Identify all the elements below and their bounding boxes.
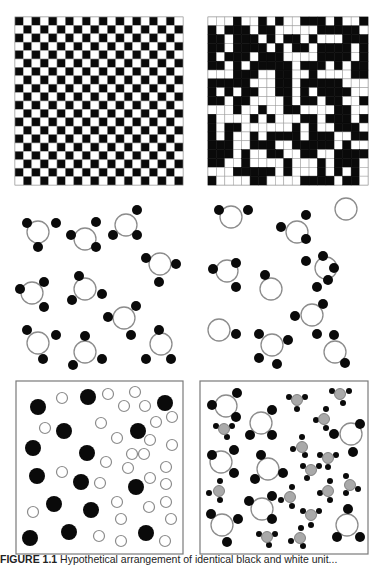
molecule — [108, 205, 142, 240]
white-cell — [15, 93, 23, 101]
white-cell — [99, 93, 107, 101]
white-cell — [91, 168, 99, 176]
white-cell — [158, 118, 166, 126]
white-cell — [275, 158, 283, 167]
black-cell — [309, 176, 317, 185]
black-cell — [91, 42, 99, 50]
black-cell — [175, 93, 183, 101]
atom — [51, 330, 61, 340]
white-cell — [57, 67, 65, 75]
black-cell — [23, 59, 31, 67]
black-cell — [40, 109, 48, 117]
atom — [340, 358, 350, 368]
white-sphere — [140, 401, 151, 412]
white-sphere — [57, 393, 68, 404]
gray-core — [335, 389, 346, 400]
atom — [243, 205, 253, 215]
white-cell — [267, 158, 275, 167]
black-cell — [32, 168, 40, 176]
atom — [224, 434, 230, 440]
black-cell — [360, 44, 368, 53]
white-cell — [275, 141, 283, 150]
black-cell — [107, 143, 115, 151]
molecule — [68, 331, 107, 370]
white-cell — [133, 177, 141, 185]
white-cell — [116, 59, 124, 67]
white-cell — [124, 34, 132, 42]
white-cell — [301, 158, 309, 167]
black-cell — [107, 109, 115, 117]
white-cell — [141, 101, 149, 109]
black-cell — [242, 70, 250, 79]
atom — [39, 277, 49, 287]
black-cell — [158, 93, 166, 101]
white-cell — [32, 143, 40, 151]
white-cell — [65, 25, 73, 33]
black-cell — [309, 61, 317, 70]
black-cell — [233, 97, 241, 106]
white-cell — [133, 76, 141, 84]
white-cell — [74, 67, 82, 75]
black-cell — [334, 158, 342, 167]
black-cell — [175, 126, 183, 134]
white-sphere — [161, 462, 172, 473]
black-cell — [301, 114, 309, 123]
atom — [276, 222, 286, 232]
black-cell — [57, 93, 65, 101]
black-sphere — [83, 502, 99, 518]
black-cell — [32, 118, 40, 126]
black-cell — [267, 61, 275, 70]
gray-core — [323, 486, 334, 497]
white-cell — [175, 51, 183, 59]
black-cell — [326, 114, 334, 123]
atom — [301, 256, 311, 266]
black-cell — [233, 35, 241, 44]
black-cell — [250, 141, 258, 150]
white-cell — [23, 135, 31, 143]
white-cell — [250, 105, 258, 114]
white-cell — [91, 34, 99, 42]
black-cell — [65, 101, 73, 109]
white-cell — [326, 123, 334, 132]
gray-core — [306, 465, 317, 476]
white-cell — [360, 105, 368, 114]
black-cell — [208, 176, 216, 185]
black-cell — [275, 79, 283, 88]
white-cell — [242, 132, 250, 141]
black-cell — [133, 67, 141, 75]
black-cell — [301, 79, 309, 88]
black-cell — [360, 17, 368, 26]
white-cell — [343, 61, 351, 70]
black-cell — [208, 61, 216, 70]
white-cell — [267, 176, 275, 185]
white-cell — [343, 79, 351, 88]
white-cell — [216, 132, 224, 141]
black-cell — [99, 135, 107, 143]
white-cell — [91, 17, 99, 25]
black-cell — [107, 76, 115, 84]
white-cell — [267, 70, 275, 79]
white-cell — [309, 88, 317, 97]
white-cell — [309, 105, 317, 114]
white-cell — [216, 105, 224, 114]
black-cell — [141, 59, 149, 67]
black-cell — [91, 93, 99, 101]
white-cell — [351, 97, 359, 106]
black-cell — [82, 168, 90, 176]
atom — [323, 406, 329, 412]
black-cell — [225, 150, 233, 159]
white-sphere — [160, 536, 171, 547]
white-cell — [259, 123, 267, 132]
white-cell — [216, 167, 224, 176]
black-cell — [267, 141, 275, 150]
atom — [343, 490, 349, 496]
molecule — [22, 325, 61, 364]
black-cell — [233, 26, 241, 35]
white-cell — [233, 176, 241, 185]
white-cell — [40, 51, 48, 59]
white-cell — [49, 42, 57, 50]
black-cell — [326, 132, 334, 141]
black-sphere — [157, 395, 173, 411]
white-cell — [233, 132, 241, 141]
white-cell — [99, 59, 107, 67]
